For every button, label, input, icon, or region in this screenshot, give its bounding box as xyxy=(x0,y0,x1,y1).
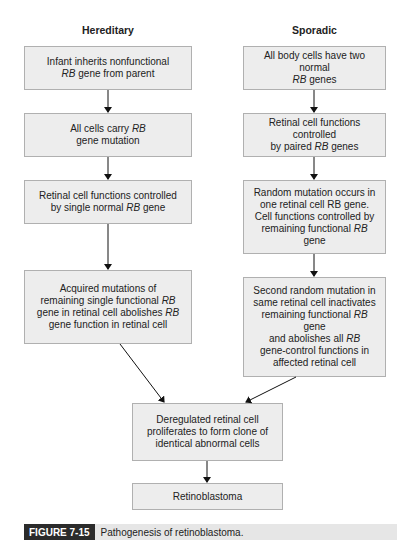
figure-caption-text: Pathogenesis of retinoblastoma. xyxy=(95,527,244,538)
figure-caption: FIGURE 7-15 Pathogenesis of retinoblasto… xyxy=(24,524,397,540)
flow-arrows xyxy=(0,0,417,555)
figure-label: FIGURE 7-15 xyxy=(24,524,95,540)
